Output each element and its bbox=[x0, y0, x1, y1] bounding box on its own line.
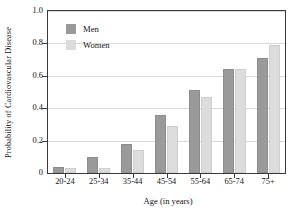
bar-women-35-44 bbox=[133, 150, 144, 173]
bar-group bbox=[116, 11, 150, 173]
legend-label-women: Women bbox=[83, 40, 110, 50]
y-tick-label: 0 bbox=[17, 169, 43, 177]
bar-women-25-34 bbox=[99, 168, 110, 173]
bar-women-20-24 bbox=[65, 168, 76, 173]
bar-group bbox=[251, 11, 285, 173]
bar-women-65-74 bbox=[235, 69, 246, 173]
bar-group bbox=[217, 11, 251, 173]
y-tick-mark bbox=[42, 108, 47, 109]
cardiovascular-disease-bar-chart: Probability of Cardiovascular Disease 00… bbox=[0, 0, 294, 213]
x-axis-title: Age (in years) bbox=[48, 196, 288, 206]
bar-group bbox=[150, 11, 184, 173]
bar-men-65-74 bbox=[223, 69, 234, 173]
legend-item-men: Men bbox=[66, 21, 110, 37]
x-axis-title-label: Age (in years) bbox=[143, 196, 192, 206]
y-axis-title-label: Probability of Cardiovascular Disease bbox=[4, 27, 13, 158]
legend-label-men: Men bbox=[83, 24, 99, 34]
y-tick-mark bbox=[42, 141, 47, 142]
bar-women-45-54 bbox=[167, 126, 178, 173]
bar-men-75+ bbox=[257, 58, 268, 173]
bar-men-35-44 bbox=[121, 144, 132, 173]
bar-men-20-24 bbox=[53, 167, 64, 173]
legend-swatch-women bbox=[66, 40, 76, 50]
bar-group bbox=[183, 11, 217, 173]
legend-swatch-men bbox=[66, 24, 76, 34]
legend-item-women: Women bbox=[66, 37, 110, 53]
x-tick-label-75+: 75+ bbox=[246, 177, 290, 186]
y-tick-mark bbox=[42, 43, 47, 44]
y-tick-label: 0.8 bbox=[17, 39, 43, 47]
y-tick-mark bbox=[42, 76, 47, 77]
y-tick-label: 1.0 bbox=[17, 7, 43, 15]
y-tick-label: 0.2 bbox=[17, 136, 43, 144]
bar-men-25-34 bbox=[87, 157, 98, 173]
y-axis-title: Probability of Cardiovascular Disease bbox=[0, 0, 16, 185]
y-tick-label: 0.6 bbox=[17, 72, 43, 80]
bar-women-55-64 bbox=[201, 97, 212, 173]
bar-men-55-64 bbox=[189, 90, 200, 173]
bar-men-45-54 bbox=[155, 115, 166, 173]
bar-women-75+ bbox=[269, 45, 280, 173]
y-tick-label: 0.4 bbox=[17, 104, 43, 112]
chart-legend: MenWomen bbox=[66, 21, 110, 53]
